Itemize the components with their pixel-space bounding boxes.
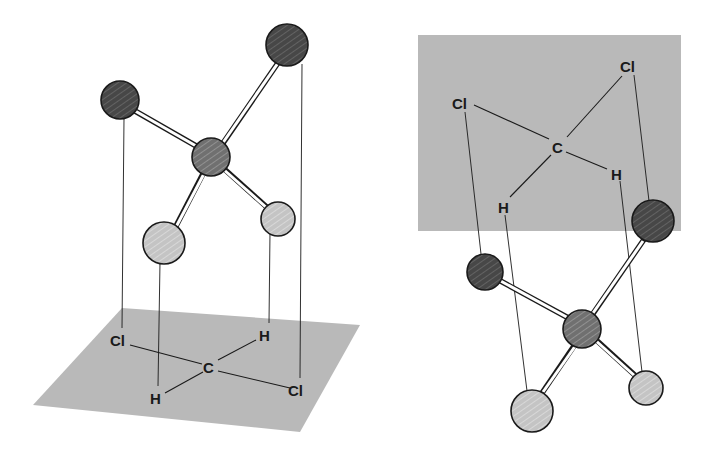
projection-plane	[418, 35, 681, 231]
chlorine-atom	[467, 254, 503, 290]
label-cl-right: Cl	[620, 58, 635, 75]
label-cl-left: Cl	[452, 95, 467, 112]
chlorine-atom	[266, 24, 308, 66]
carbon-atom	[563, 310, 601, 348]
chlorine-atom	[632, 200, 674, 242]
hydrogen-atom	[143, 222, 185, 264]
label-h-left: H	[498, 199, 509, 216]
hydrogen-atom	[511, 390, 553, 432]
label-h-right: H	[611, 166, 622, 183]
label-c-center: C	[203, 359, 214, 376]
carbon-atom	[192, 138, 230, 176]
chlorine-atom	[101, 81, 139, 119]
label-cl-right: Cl	[288, 382, 303, 399]
hydrogen-atom	[629, 371, 663, 405]
projection-plane	[33, 308, 360, 432]
label-h-back: H	[259, 327, 270, 344]
hydrogen-atom	[261, 202, 295, 236]
label-cl-left: Cl	[110, 332, 125, 349]
label-h-front: H	[150, 390, 161, 407]
label-c-center: C	[552, 139, 563, 156]
right-figure: Cl Cl C H H	[418, 35, 681, 432]
left-figure: Cl H C H Cl	[33, 24, 360, 432]
molecule-projection-diagram: Cl H C H Cl	[0, 0, 705, 462]
